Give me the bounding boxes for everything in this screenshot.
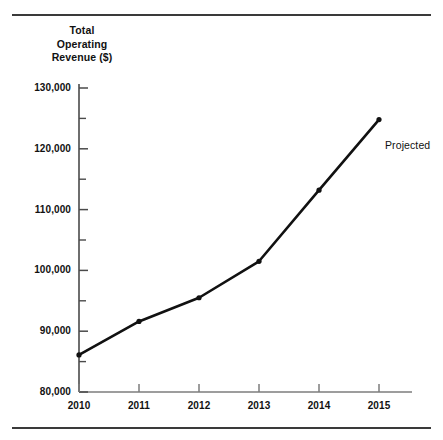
- x-axis-tick-label: 2015: [357, 400, 401, 411]
- y-axis-tick-label: 90,000: [13, 325, 71, 336]
- axis-lines: [79, 84, 412, 392]
- data-point-markers: [76, 117, 381, 357]
- data-point: [316, 188, 321, 193]
- y-axis-tick-label: 110,000: [13, 204, 71, 215]
- y-axis-tick-label: 80,000: [13, 386, 71, 397]
- data-point: [256, 259, 261, 264]
- y-axis-tick-label: 130,000: [13, 82, 71, 93]
- y-axis-minor-ticks: [79, 118, 86, 361]
- revenue-line: [79, 120, 379, 355]
- x-axis-tick-label: 2014: [297, 400, 341, 411]
- data-point: [136, 319, 141, 324]
- x-axis-ticks: [79, 384, 379, 392]
- data-point: [76, 352, 81, 357]
- plot-area: [0, 0, 443, 440]
- x-axis-tick-label: 2013: [237, 400, 281, 411]
- y-axis-tick-label: 120,000: [13, 143, 71, 154]
- data-point: [376, 117, 381, 122]
- x-axis-tick-label: 2012: [177, 400, 221, 411]
- y-axis-tick-label: 100,000: [13, 264, 71, 275]
- projected-annotation: Projected: [385, 139, 430, 151]
- x-axis-tick-label: 2011: [117, 400, 161, 411]
- data-point: [196, 295, 201, 300]
- x-axis-tick-label: 2010: [57, 400, 101, 411]
- chart-figure: Total Operating Revenue ($) 80,00090,000…: [0, 0, 443, 440]
